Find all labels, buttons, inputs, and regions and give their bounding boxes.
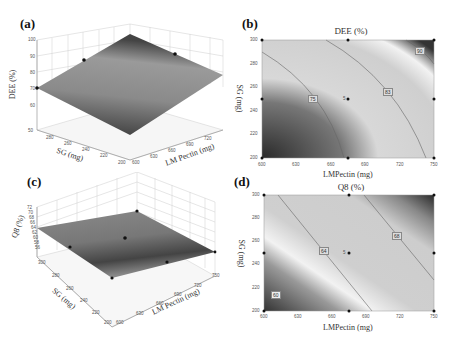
panel-label-a: (a) <box>20 16 35 32</box>
x-axis-label-d: LMPectin (mg) <box>323 323 373 332</box>
panel-d: (d) Q8 (%) SG (mg) LMPectin (mg) 60 64 6… <box>226 172 452 344</box>
panel-b: (b) DEE (%) SG (mg) 75 83 90 5 300 280 2… <box>226 0 452 172</box>
y-axis-label-b: SG (mg) <box>235 85 244 113</box>
contour-label-d-1: 60 <box>271 291 281 299</box>
contour-label-d-2: 64 <box>319 247 329 255</box>
contour-label-d-3: 68 <box>392 232 402 240</box>
panel-a: (a) DEE (%) SG (mg) LM Pectin (mg) 100 9… <box>0 0 226 172</box>
surface-plot-c <box>0 172 226 344</box>
y-axis-label-d: SG (mg) <box>237 240 246 268</box>
contour-label-b-3: 90 <box>415 47 425 55</box>
chart-title-b: DEE (%) <box>326 26 376 36</box>
panel-label-d: (d) <box>234 174 250 190</box>
panel-label-c: (c) <box>27 174 41 190</box>
panel-c: (c) Q8 (%) SG (mg) LM Pectin (mg) 72 70 … <box>0 172 226 344</box>
center-point-label-b: 5 <box>343 96 346 101</box>
contour-label-b-1: 75 <box>308 95 318 103</box>
panel-label-b: (b) <box>242 16 258 32</box>
x-axis-label-b: LMPectin (mg) <box>323 170 373 179</box>
chart-title-d: Q8 (%) <box>326 182 376 192</box>
center-point-label-d: 5 <box>343 250 346 255</box>
contour-label-b-2: 83 <box>383 88 393 96</box>
z-axis-label-a: DEE (%) <box>8 70 17 100</box>
